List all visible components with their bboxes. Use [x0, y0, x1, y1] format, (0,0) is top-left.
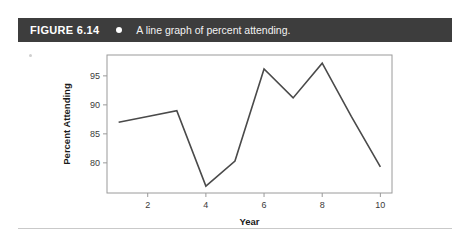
x-tick-label: 8: [320, 200, 325, 210]
figure-caption-label: A line graph of percent attending.: [136, 24, 290, 36]
x-tick-label: 4: [203, 200, 208, 210]
y-tick-label: 90: [90, 100, 100, 110]
figure-container: FIGURE 6.14 A line graph of percent atte…: [0, 0, 470, 244]
data-line-series: [119, 63, 381, 186]
x-tick-label: 10: [375, 200, 385, 210]
chart-plot-area: 80859095 246810 Percent Attending Year: [0, 44, 470, 229]
bullet-dot-icon: [116, 27, 122, 33]
x-tick-label: 2: [145, 200, 150, 210]
bottom-divider: [18, 228, 452, 229]
y-tick-label: 95: [90, 71, 100, 81]
x-tick-label: 6: [262, 200, 267, 210]
figure-header-bar: FIGURE 6.14 A line graph of percent atte…: [18, 18, 452, 42]
y-tick-label: 80: [90, 158, 100, 168]
plot-frame: [107, 55, 392, 193]
figure-number-label: FIGURE 6.14: [30, 24, 99, 36]
line-chart-svg: 80859095 246810 Percent Attending Year: [0, 44, 470, 229]
y-axis-ticks: 80859095: [90, 71, 107, 168]
y-axis-title: Percent Attending: [61, 83, 72, 165]
x-axis-ticks: 246810: [145, 193, 385, 210]
x-axis-title: Year: [239, 216, 259, 227]
y-tick-label: 85: [90, 129, 100, 139]
